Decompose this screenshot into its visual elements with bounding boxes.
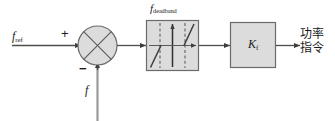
label-output-power-command: 功率指令 <box>300 28 324 56</box>
label-deadband-subscript: deadband <box>153 7 177 14</box>
label-gain: Kf <box>236 38 270 51</box>
label-gain-symbol: K <box>248 37 256 51</box>
summing-plus-sign: + <box>61 27 69 40</box>
label-output-line2: 指令 <box>300 42 324 56</box>
summing-minus-sign: − <box>79 62 87 75</box>
label-feedback-symbol: f <box>85 83 88 97</box>
label-deadband: fdeadband <box>150 3 177 15</box>
label-gain-subscript: f <box>256 44 258 52</box>
label-reference-frequency: fref <box>12 30 23 43</box>
label-output-line1: 功率 <box>300 28 324 42</box>
label-feedback-frequency: f <box>85 84 88 96</box>
diagram-canvas <box>0 0 335 121</box>
block-diagram: fref + − f fdeadband Kf 功率指令 <box>0 0 335 121</box>
label-reference-subscript: ref <box>15 36 22 44</box>
